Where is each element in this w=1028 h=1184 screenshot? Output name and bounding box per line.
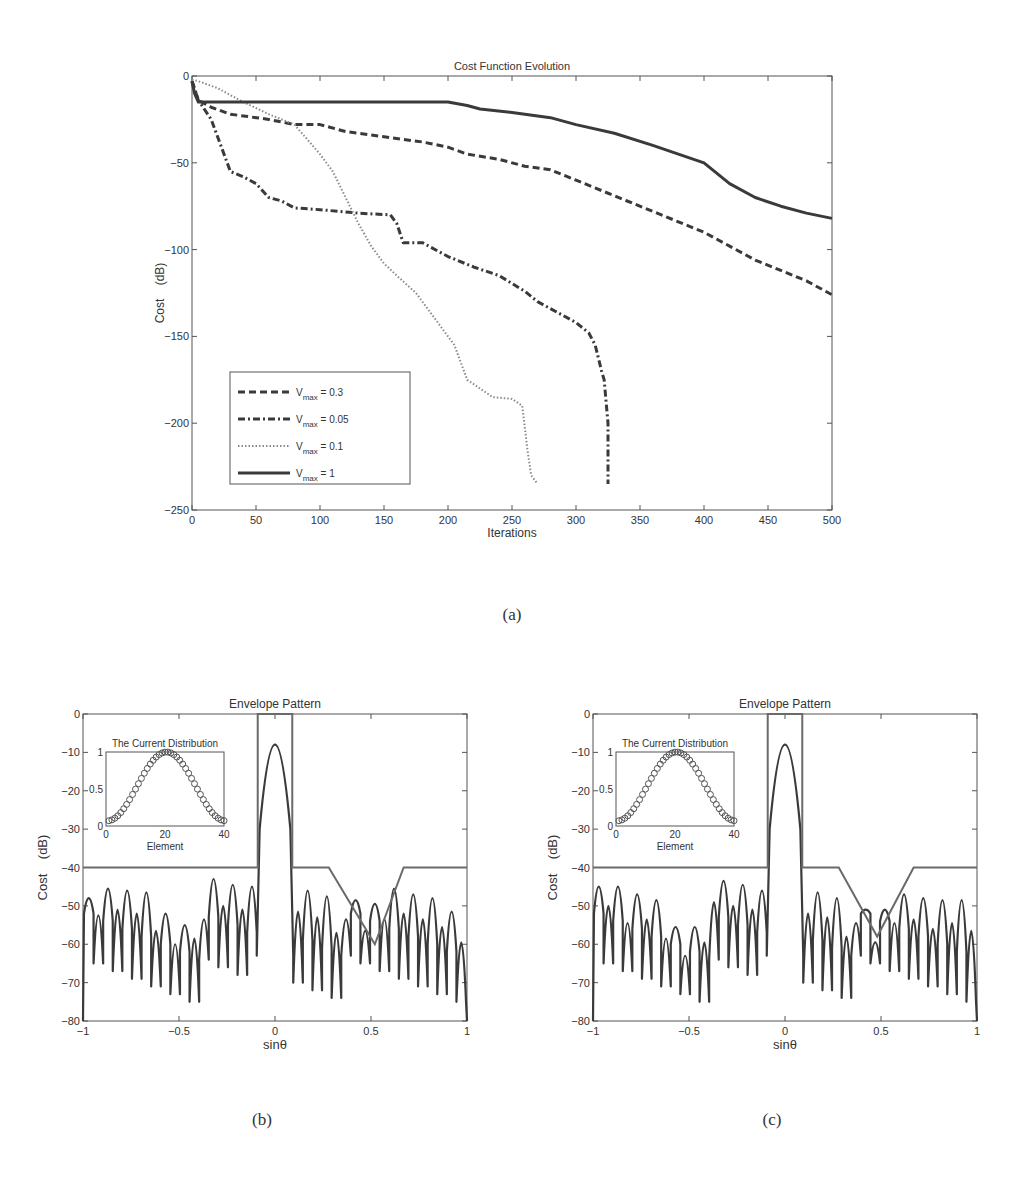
y-tick-label: −40 <box>571 862 590 874</box>
y-axis-label: Cost (dB) <box>35 835 50 901</box>
inset-x-tick: 0 <box>613 829 619 840</box>
inset-x-tick: 0 <box>103 829 109 840</box>
y-tick-label: −60 <box>571 938 590 950</box>
x-axis-label: sinθ <box>773 1037 797 1050</box>
y-tick-label: −20 <box>61 785 80 797</box>
x-tick-label: 1 <box>464 1025 470 1037</box>
inset-x-label: Element <box>657 841 694 852</box>
caption-a: (a) <box>482 605 542 625</box>
x-tick-label: −0.5 <box>168 1025 190 1037</box>
inset-x-tick: 20 <box>669 829 681 840</box>
y-tick-label: −70 <box>571 977 590 989</box>
chart-title: Envelope Pattern <box>229 697 321 711</box>
x-tick-label: 300 <box>567 514 585 526</box>
inset-x-tick: 20 <box>159 829 171 840</box>
inset-current-distribution: The Current DistributionElement0204000.5… <box>599 738 740 852</box>
inset-title: The Current Distribution <box>622 738 728 749</box>
y-tick-label: −50 <box>571 900 590 912</box>
caption-b: (b) <box>232 1110 292 1130</box>
y-tick-label: −30 <box>571 823 590 835</box>
caption-c: (c) <box>742 1110 802 1130</box>
chart-b-canvas: −1−0.500.510−10−20−30−40−50−60−70−80Enve… <box>30 680 480 1050</box>
x-tick-label: 150 <box>375 514 393 526</box>
y-tick-label: −200 <box>164 417 189 429</box>
inset-x-label: Element <box>147 841 184 852</box>
inset-y-tick: 0.5 <box>599 784 613 795</box>
y-tick-label: −150 <box>164 330 189 342</box>
x-tick-label: 0 <box>272 1025 278 1037</box>
chart-title: Cost Function Evolution <box>454 60 570 72</box>
y-tick-label: −10 <box>571 746 590 758</box>
x-tick-label: 350 <box>631 514 649 526</box>
x-tick-label: 450 <box>759 514 777 526</box>
chart-c-canvas: −1−0.500.510−10−20−30−40−50−60−70−80Enve… <box>540 680 990 1050</box>
x-tick-label: 0.5 <box>363 1025 378 1037</box>
inset-y-tick: 0 <box>607 821 613 832</box>
legend: Vmax = 0.3Vmax = 0.05Vmax = 0.1Vmax = 1 <box>230 372 410 484</box>
x-tick-label: 250 <box>503 514 521 526</box>
inset-y-tick: 1 <box>97 747 103 758</box>
y-tick-label: −60 <box>61 938 80 950</box>
chart-a-canvas: 0501001502002503003504004505000−50−100−1… <box>150 50 870 550</box>
x-tick-label: 500 <box>823 514 841 526</box>
chart-envelope-pattern-c: −1−0.500.510−10−20−30−40−50−60−70−80Enve… <box>540 680 990 1050</box>
x-tick-label: 1 <box>974 1025 980 1037</box>
inset-x-tick: 40 <box>728 829 740 840</box>
y-axis-label: Cost (dB) <box>545 835 560 901</box>
x-axis-label: Iterations <box>487 526 536 540</box>
y-axis-label: Cost (dB) <box>153 263 167 324</box>
chart-envelope-pattern-b: −1−0.500.510−10−20−30−40−50−60−70−80Enve… <box>30 680 480 1050</box>
y-tick-label: −70 <box>61 977 80 989</box>
y-tick-label: 0 <box>584 708 590 720</box>
series-line-solid <box>192 81 832 218</box>
y-tick-label: 0 <box>74 708 80 720</box>
x-tick-label: 100 <box>311 514 329 526</box>
y-tick-label: −80 <box>61 1015 80 1027</box>
inset-current-distribution: The Current DistributionElement0204000.5… <box>89 738 230 852</box>
y-tick-label: −50 <box>61 900 80 912</box>
x-tick-label: 400 <box>695 514 713 526</box>
y-tick-label: −20 <box>571 785 590 797</box>
inset-y-tick: 0.5 <box>89 784 103 795</box>
inset-y-tick: 0 <box>97 821 103 832</box>
y-tick-label: −80 <box>571 1015 590 1027</box>
y-tick-label: −50 <box>170 157 189 169</box>
x-tick-label: −0.5 <box>678 1025 700 1037</box>
x-tick-label: 0 <box>782 1025 788 1037</box>
x-tick-label: 0.5 <box>873 1025 888 1037</box>
y-tick-label: −250 <box>164 504 189 516</box>
x-tick-label: 200 <box>439 514 457 526</box>
chart-cost-function-evolution: 0501001502002503003504004505000−50−100−1… <box>150 50 870 550</box>
y-tick-label: 0 <box>183 70 189 82</box>
y-tick-label: −100 <box>164 244 189 256</box>
chart-title: Envelope Pattern <box>739 697 831 711</box>
x-axis-label: sinθ <box>263 1037 287 1050</box>
inset-y-tick: 1 <box>607 747 613 758</box>
x-tick-label: 0 <box>189 514 195 526</box>
y-tick-label: −10 <box>61 746 80 758</box>
y-tick-label: −30 <box>61 823 80 835</box>
x-tick-label: 50 <box>250 514 262 526</box>
y-tick-label: −40 <box>61 862 80 874</box>
inset-title: The Current Distribution <box>112 738 218 749</box>
inset-x-tick: 40 <box>218 829 230 840</box>
